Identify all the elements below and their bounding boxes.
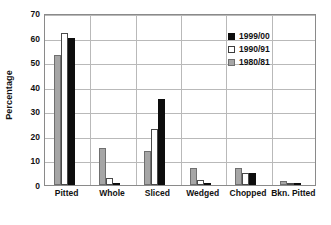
bar-group [144,15,165,185]
bar [68,38,75,185]
bar-chart: Percentage 010203040506070 PittedWholeSl… [0,0,331,225]
legend-swatch-icon [228,46,235,53]
bar [235,168,242,185]
bar [113,183,120,185]
y-axis-tick-labels: 010203040506070 [17,14,43,186]
bar [197,180,204,185]
bar [190,168,197,185]
y-axis-tick-label: 0 [35,182,40,191]
x-axis-tick-label: Bkn. Pitted [271,189,315,198]
bar [99,148,106,185]
plot-area [44,14,316,186]
bar [106,178,113,185]
bar [294,183,301,185]
x-axis-tick-label: Pitted [55,189,79,198]
legend-entry: 1980/81 [228,56,270,68]
x-axis-tick-label: Sliced [145,189,170,198]
bar-group [99,15,120,185]
legend-swatch-icon [228,59,235,66]
y-axis-tick-label: 70 [31,10,40,19]
bar [151,129,158,186]
bars-layer [45,15,315,185]
legend-swatch-icon [228,33,235,40]
bar [242,173,249,185]
legend-entry: 1990/91 [228,43,270,55]
bar [61,33,68,185]
x-axis-tick-label: Wedged [186,189,219,198]
bar-group [54,15,75,185]
x-axis-tick-label: Whole [99,189,125,198]
bar-group [190,15,211,185]
y-axis-tick-label: 30 [31,108,40,117]
y-axis-tick-label: 10 [31,157,40,166]
legend-label: 1980/81 [239,58,270,67]
x-axis-tick-label: Chopped [230,189,267,198]
bar [280,181,287,185]
legend-entry: 1999/00 [228,30,270,42]
bar [287,183,294,185]
y-axis-tick-label: 40 [31,83,40,92]
bar [144,151,151,185]
x-axis-tick-labels: PittedWholeSlicedWedgedChoppedBkn. Pitte… [44,189,316,205]
bar [204,183,211,185]
y-axis-title: Percentage [0,0,18,190]
bar [249,173,256,185]
bar [54,55,61,185]
y-axis-tick-label: 20 [31,133,40,142]
legend-label: 1990/91 [239,45,270,54]
y-axis-title-text: Percentage [4,70,14,120]
legend-label: 1999/00 [239,32,270,41]
bar [158,99,165,185]
bar-group [280,15,301,185]
chart-legend: 1999/001990/911980/81 [228,30,270,68]
y-axis-tick-label: 60 [31,34,40,43]
y-axis-tick-label: 50 [31,59,40,68]
